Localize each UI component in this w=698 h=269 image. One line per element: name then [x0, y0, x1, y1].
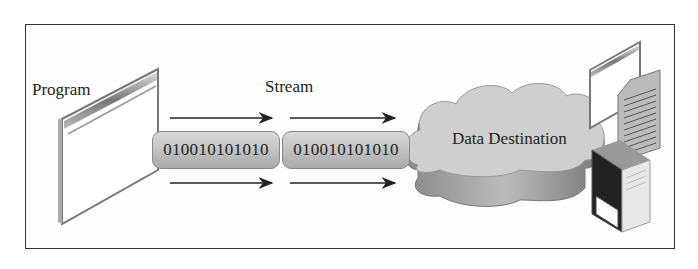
stream-segment-2: 010010101010 [282, 131, 410, 169]
stream-label: Stream [265, 77, 313, 97]
program-label: Program [32, 80, 91, 100]
stream-segment-1: 010010101010 [152, 131, 280, 169]
data-destination-label: Data Destination [452, 129, 567, 149]
